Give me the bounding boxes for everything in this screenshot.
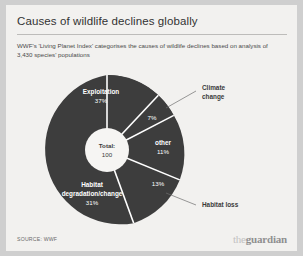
slice-value-climate-change: 7%	[148, 114, 157, 121]
leader-line-climate-change	[166, 91, 196, 108]
source-note: SOURCE: WWF	[17, 236, 57, 242]
donut-center-value: 100	[102, 151, 113, 158]
chart-card: Causes of wildlife declines globally WWF…	[6, 5, 297, 251]
pie-chart: Total: 100 Exploitation 37% 7% other 11%…	[6, 5, 297, 251]
slice-label-exploitation: Exploitation	[83, 88, 120, 96]
callout-climate-change-line1: Climate	[202, 84, 226, 91]
slice-label-other: other	[155, 139, 171, 146]
slice-value-habitat-degradation: 31%	[86, 199, 99, 206]
slice-value-habitat-loss: 13%	[152, 180, 165, 187]
logo-the: the	[233, 233, 246, 245]
slice-label-habitat-degradation-2: degradation/change	[62, 190, 123, 198]
guardian-logo: theguardian	[233, 233, 287, 245]
logo-guardian: guardian	[246, 233, 287, 245]
donut-center-label: Total:	[99, 142, 115, 149]
slice-value-exploitation: 37%	[95, 97, 108, 104]
callout-climate-change-line2: change	[202, 93, 225, 101]
slice-value-other: 11%	[157, 148, 169, 155]
callout-habitat-loss: Habitat loss	[202, 201, 239, 208]
donut-hole	[85, 128, 129, 172]
leader-line-habitat-loss	[166, 193, 196, 205]
slice-label-habitat-degradation-1: Habitat	[81, 181, 104, 188]
